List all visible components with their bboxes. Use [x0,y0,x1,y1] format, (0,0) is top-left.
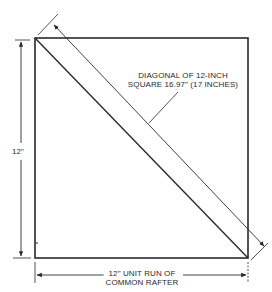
side-length-label: 12" [12,147,24,156]
diagram-drawing [0,0,272,292]
diagonal-label: DIAGONAL OF 12-INCH SQUARE 16.97" (17 IN… [128,71,238,89]
diagonal-label-line2: SQUARE 16.97" (17 INCHES) [128,80,238,89]
rafter-square-diagram: DIAGONAL OF 12-INCH SQUARE 16.97" (17 IN… [0,0,272,292]
diagonal-label-leader [149,92,178,123]
diagonal-label-line1: DIAGONAL OF 12-INCH [128,71,238,80]
run-label: 12" UNIT RUN OF COMMON RAFTER [104,269,181,287]
diagonal-extension-bottom [251,243,268,260]
run-label-line1: 12" UNIT RUN OF [106,269,179,278]
diagonal-dimension-line [54,25,264,246]
run-label-line2: COMMON RAFTER [106,278,179,287]
diagonal-extension-top [38,14,58,35]
